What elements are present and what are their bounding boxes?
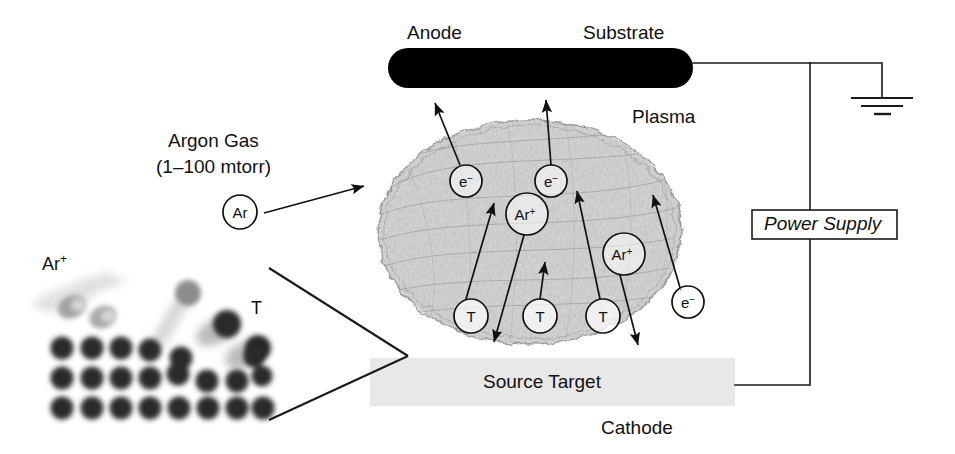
- atomic-scale-sputtering-inset: [30, 272, 275, 420]
- svg-text:T: T: [535, 308, 544, 325]
- power-supply-label: Power Supply: [764, 213, 881, 235]
- particle-e2: e−: [535, 165, 567, 197]
- arrow-argon-inlet: [264, 186, 364, 213]
- particle-e3: e−: [672, 286, 704, 318]
- anode-label: Anode: [407, 22, 462, 44]
- source-target-label: Source Target: [483, 371, 601, 393]
- svg-text:T: T: [598, 308, 607, 325]
- svg-text:T: T: [466, 308, 475, 325]
- particle-t2: T: [523, 299, 557, 333]
- substrate-label: Substrate: [583, 22, 664, 44]
- cathode-label: Cathode: [601, 417, 673, 439]
- particle-ar2: Ar+: [603, 233, 645, 275]
- argon-gas-label: Argon Gas: [168, 130, 259, 152]
- inset-target-atom-label: T: [251, 298, 262, 319]
- plasma-label: Plasma: [632, 106, 695, 128]
- svg-text:Ar: Ar: [233, 204, 248, 221]
- particle-t3: T: [586, 299, 620, 333]
- particle-ar-inlet: Ar: [223, 195, 257, 229]
- inset-argon-ion-symbol: Ar: [42, 254, 60, 274]
- particle-t1: T: [454, 299, 488, 333]
- wire-supply-to-target: [735, 239, 810, 385]
- anode-substrate-bar: [388, 48, 693, 88]
- particle-ar1: Ar+: [506, 193, 548, 235]
- argon-pressure-label: (1–100 mtorr): [156, 156, 271, 178]
- particle-e1: e−: [450, 165, 482, 197]
- magnifier-line-upper: [269, 268, 408, 356]
- inset-argon-ion-charge: +: [60, 252, 67, 266]
- ejected-atom-center: [151, 280, 201, 346]
- ground-icon: [851, 98, 913, 114]
- wire-node-to-ground: [810, 63, 882, 98]
- sputter-deposition-figure: e− e− Ar+ Ar+ T T: [0, 0, 955, 454]
- inset-argon-ion-label: Ar+: [42, 254, 67, 275]
